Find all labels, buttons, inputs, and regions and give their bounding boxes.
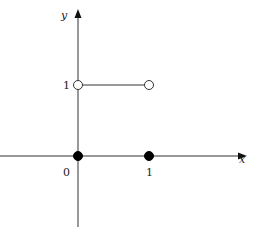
open-point <box>145 81 154 90</box>
filled-point <box>145 152 154 161</box>
x-tick-label: 0 <box>63 166 70 179</box>
tick-labels: 011 <box>63 79 153 179</box>
graph-marks <box>74 81 154 161</box>
open-point <box>74 81 83 90</box>
filled-point <box>74 152 83 161</box>
axes <box>0 9 247 227</box>
function-graph: x y 011 <box>0 0 256 245</box>
y-tick-label: 1 <box>63 79 70 92</box>
x-tick-label: 1 <box>146 166 153 179</box>
x-axis-label: x <box>239 153 246 166</box>
y-axis-arrow-icon <box>75 9 82 18</box>
y-axis-label: y <box>60 9 68 22</box>
